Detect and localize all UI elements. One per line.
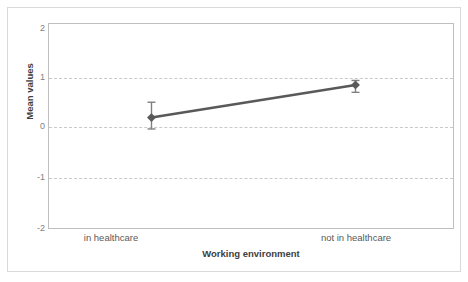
data-point-marker: [351, 80, 360, 89]
y-tick-label: -1: [19, 172, 45, 182]
x-tick-label-not-in-healthcare: not in healthcare: [276, 232, 436, 243]
y-axis-tick-labels: 2 1 0 -1 -2: [8, 23, 45, 229]
y-tick-label: 2: [19, 23, 45, 33]
chart-frame: Mean values 2 1 0 -1 -2: [7, 7, 461, 272]
y-tick-label: 0: [19, 121, 45, 131]
x-axis-title: Working environment: [48, 248, 454, 259]
y-tick-label: 1: [19, 72, 45, 82]
plot-area: [48, 23, 454, 229]
series-layer: [49, 24, 453, 228]
data-point-marker: [147, 113, 156, 122]
x-axis-tick-labels: in healthcare not in healthcare: [48, 232, 454, 248]
series-line: [151, 85, 355, 118]
x-tick-label-in-healthcare: in healthcare: [31, 232, 191, 243]
